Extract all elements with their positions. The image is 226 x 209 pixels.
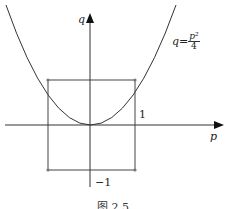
- tick-label-minus-1: −1: [95, 177, 111, 188]
- curve-equation-fraction: p²4: [188, 32, 199, 51]
- corner-dot-top-right: [133, 78, 136, 81]
- curve-equation-denominator: 4: [188, 42, 199, 51]
- p-axis-arrow-icon: [214, 121, 224, 129]
- figure-caption: 图 2.5: [0, 198, 226, 209]
- corner-dot-top-left: [46, 78, 49, 81]
- corner-dot-bottom-right: [133, 168, 136, 171]
- corner-dot-bottom-left: [46, 168, 49, 171]
- q-axis-label: q: [78, 14, 85, 25]
- tick-label-1: 1: [139, 109, 146, 120]
- p-axis-label: p: [210, 131, 217, 142]
- q-axis-arrow-icon: [86, 13, 94, 23]
- curve-equation-lhs: q=: [172, 35, 188, 48]
- curve-equation-label: q=p²4: [172, 32, 200, 51]
